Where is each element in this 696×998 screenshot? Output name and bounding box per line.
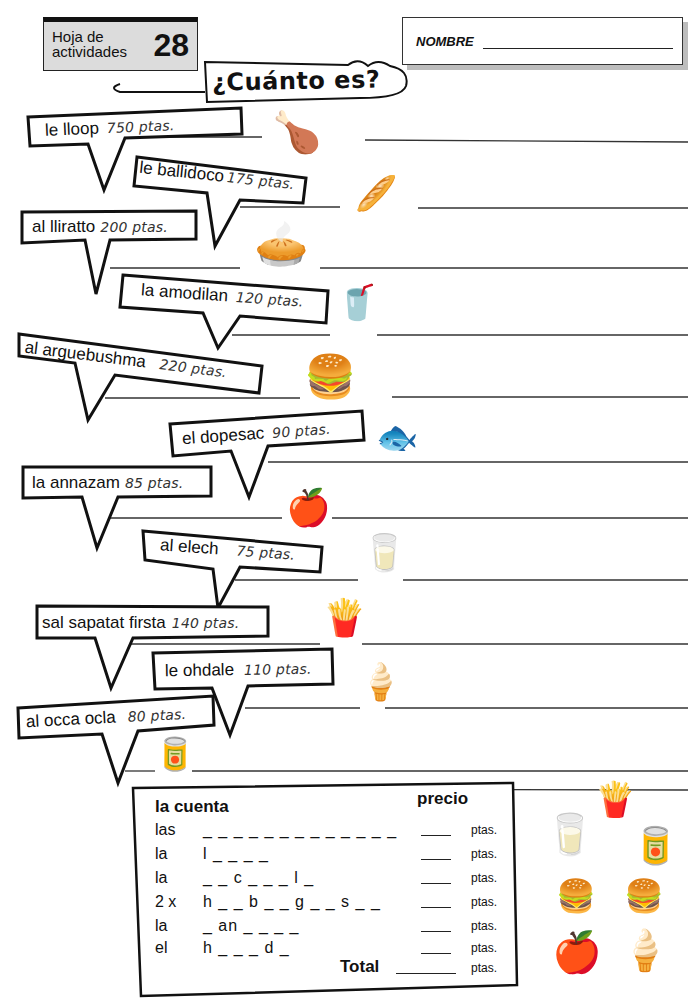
bill-row: la _ an _ _ _ _ ptas. — [155, 917, 505, 939]
menu-item: la annazam85 ptas. — [32, 473, 183, 493]
bill-unit: ptas. — [471, 871, 497, 885]
bill-article: la — [155, 917, 167, 935]
item-price: 140 ptas. — [172, 615, 240, 631]
bill-unit: ptas. — [471, 941, 497, 955]
item-price: 75 ptas. — [236, 543, 296, 563]
bill-word-blanks[interactable]: _ an _ _ _ _ — [203, 917, 300, 935]
page-title: ¿Cuánto es? — [212, 66, 381, 97]
fish-icon: 🐟 — [376, 420, 418, 454]
hamburger-icon: 🍔 — [624, 880, 664, 912]
menu-item: al lliratto200 ptas. — [32, 217, 168, 237]
tortilla-on-plate-icon: 🥧 — [254, 222, 309, 266]
item-price: 80 ptas. — [127, 706, 186, 725]
bill-unit: ptas. — [471, 847, 497, 861]
bill-row: la l _ _ _ _ ptas. — [155, 845, 505, 867]
hamburger-icon: 🍔 — [556, 880, 596, 912]
ice-cream-cone-icon: 🍦 — [620, 930, 670, 970]
bill-row: las _ _ _ _ _ _ _ _ _ _ _ _ _ ptas. — [155, 821, 505, 843]
bill-price-heading: precio — [417, 789, 468, 809]
milk-carton-icon: 🥛 — [545, 814, 595, 854]
bill-unit: ptas. — [471, 895, 497, 909]
item-price: 90 ptas. — [272, 421, 332, 441]
bill-price-blank[interactable] — [421, 835, 451, 836]
cola-can-icon: 🥫 — [633, 828, 678, 864]
bill-article: las — [155, 821, 175, 839]
menu-item: le ohdale110 ptas. — [165, 659, 312, 682]
item-price: 750 ptas. — [107, 117, 175, 136]
item-word: al lliratto — [32, 217, 95, 236]
bill-word-blanks[interactable]: h _ _ _ d _ — [203, 939, 290, 957]
bill-price-blank[interactable] — [421, 953, 451, 954]
bill-article: la — [155, 869, 167, 887]
apple-icon: 🍎 — [552, 932, 602, 972]
item-price: 200 ptas. — [100, 219, 168, 235]
item-word: le ohdale — [165, 660, 234, 680]
bill-row: 2 x h _ _ b _ _ g _ _ s _ _ ptas. — [155, 893, 505, 915]
bill-word-blanks[interactable]: _ _ _ _ _ _ _ _ _ _ _ _ _ — [203, 821, 397, 839]
bill-row: la _ _ c _ _ _ l _ ptas. — [155, 869, 505, 891]
bill-panel: la cuenta precio las _ _ _ _ _ _ _ _ _ _… — [133, 785, 516, 995]
item-price: 120 ptas. — [235, 289, 304, 310]
bill-article: la — [155, 845, 167, 863]
item-word: le lloop — [45, 118, 100, 139]
bill-price-blank[interactable] — [421, 859, 451, 860]
name-field-box: NOMBRE — [402, 17, 683, 65]
bill-word-blanks[interactable]: h _ _ b _ _ g _ _ s _ _ — [203, 893, 381, 911]
name-label: NOMBRE — [416, 34, 474, 49]
bill-price-blank[interactable] — [421, 907, 451, 908]
activity-sheet-label: Hoja de actividades — [52, 29, 142, 59]
bill-article: 2 x — [155, 893, 176, 911]
bill-price-blank[interactable] — [421, 931, 451, 932]
name-input-line[interactable] — [483, 48, 673, 49]
item-word: sal sapatat firsta — [42, 613, 166, 632]
bill-total-unit: ptas. — [471, 961, 497, 975]
bill-unit: ptas. — [471, 823, 497, 837]
bill-word-blanks[interactable]: _ _ c _ _ _ l _ — [203, 869, 314, 887]
milk-carton-icon: 🥛 — [362, 535, 407, 571]
bill-unit: ptas. — [471, 919, 497, 933]
apple-icon: 🍎 — [286, 490, 331, 526]
lemonade-glass-icon: 🥤 — [336, 285, 378, 319]
item-word: al elech — [160, 535, 220, 558]
bill-total-label: Total — [340, 957, 379, 977]
item-price: 85 ptas. — [125, 475, 184, 491]
activity-sheet-number: 28 — [153, 27, 189, 64]
cola-can-icon: 🥫 — [155, 738, 195, 770]
ice-cream-cone-icon: 🍦 — [358, 664, 403, 700]
french-fries-icon: 🍟 — [594, 782, 636, 816]
baguette-sandwich-icon: 🥖 — [355, 176, 397, 210]
roast-chicken-icon: 🍗 — [272, 112, 322, 152]
bill-price-blank[interactable] — [421, 883, 451, 884]
hamburger-icon: 🍔 — [304, 356, 356, 398]
bill-word-blanks[interactable]: l _ _ _ _ — [203, 845, 269, 863]
bill-article: el — [155, 939, 167, 957]
menu-item: sal sapatat firsta140 ptas. — [42, 613, 239, 633]
item-word: al occa ocla — [26, 708, 117, 732]
item-price: 110 ptas. — [244, 661, 312, 678]
bill-total-blank[interactable] — [396, 973, 456, 974]
activity-sheet-badge: Hoja de actividades 28 — [43, 17, 198, 71]
item-word: la annazam — [32, 473, 120, 492]
bill-heading: la cuenta — [155, 797, 229, 817]
french-fries-icon: 🍟 — [322, 600, 367, 636]
bill-row: el h _ _ _ d _ ptas. — [155, 939, 505, 961]
